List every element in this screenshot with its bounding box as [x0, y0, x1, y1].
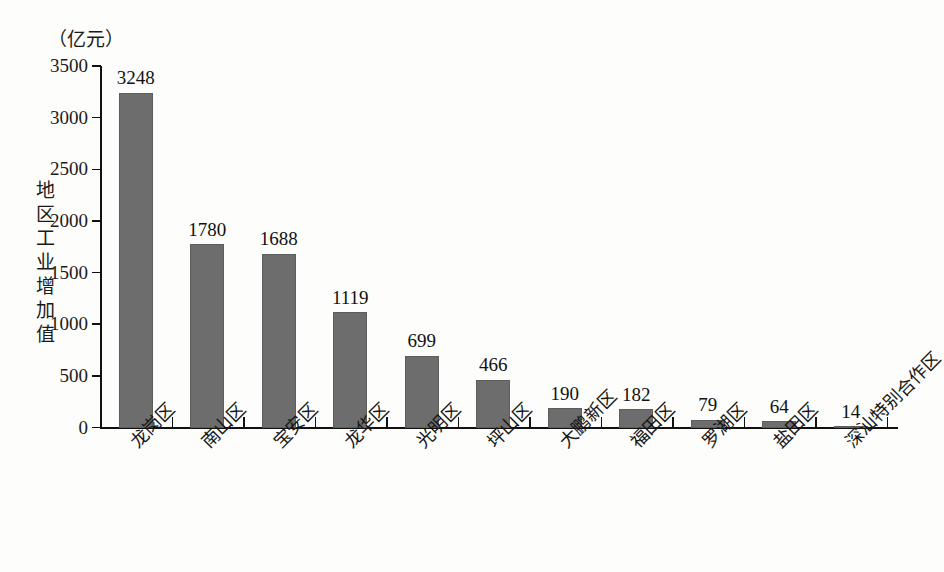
bar-value-label: 466: [458, 355, 528, 375]
bar-value-label: 3248: [101, 68, 171, 88]
bar[interactable]: [190, 244, 224, 428]
bar[interactable]: [333, 312, 367, 428]
bar[interactable]: [262, 254, 296, 428]
bar-value-label: 699: [387, 331, 457, 351]
bar-value-label: 1780: [172, 220, 242, 240]
bar-value-label: 1688: [244, 229, 314, 249]
bar-value-label: 1119: [315, 288, 385, 308]
bar[interactable]: [119, 93, 153, 428]
